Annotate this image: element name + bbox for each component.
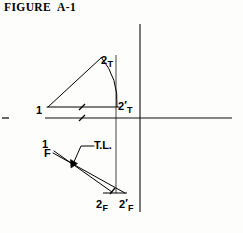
label-true-length: T.L.	[94, 140, 112, 151]
label-point-2f: 2F	[96, 195, 108, 211]
label-point-1-front: 1 F	[42, 140, 51, 158]
figure-page: FIGURE A-1	[0, 0, 243, 233]
frontview-line-1f-to-2prime-f	[53, 153, 125, 193]
true-length-leader-line	[73, 146, 94, 164]
topview-line-1-to-2t	[48, 58, 101, 107]
label-point-2t: 2T	[101, 51, 113, 67]
frontview-line-1f-to-2f	[54, 151, 112, 192]
label-point-2prime-t: 2′T	[118, 97, 132, 113]
label-point-2prime-f: 2′F	[119, 195, 133, 211]
label-point-1-top: 1	[36, 101, 42, 117]
